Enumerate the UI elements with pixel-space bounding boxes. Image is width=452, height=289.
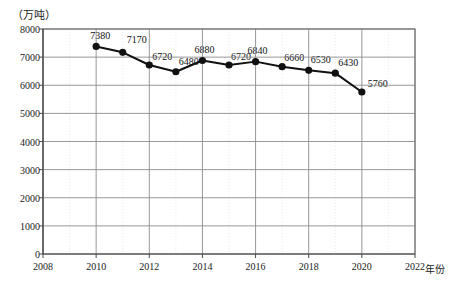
data-point-marker[interactable]	[358, 88, 365, 95]
data-point-marker[interactable]	[172, 68, 179, 75]
data-point-marker[interactable]	[305, 67, 312, 74]
data-point-marker[interactable]	[146, 61, 153, 68]
data-point-marker[interactable]	[119, 49, 126, 56]
data-point-marker[interactable]	[199, 57, 206, 64]
data-point-marker[interactable]	[279, 63, 286, 70]
data-point-marker[interactable]	[93, 43, 100, 50]
data-point-marker[interactable]	[252, 58, 259, 65]
data-point-marker[interactable]	[225, 61, 232, 68]
plot-area	[0, 0, 452, 289]
data-point-marker[interactable]	[332, 70, 339, 77]
line-chart: （万吨） 010002000300040005000600070008000 2…	[0, 0, 452, 289]
